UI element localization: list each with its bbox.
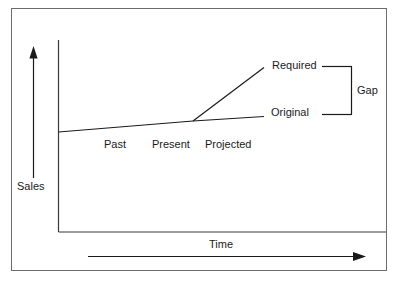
original-trend-line: [59, 121, 194, 132]
sales-arrow-head: [29, 46, 37, 59]
time-arrow-head: [353, 252, 366, 261]
y-axis-label: Sales: [17, 181, 45, 192]
series-label-required: Required: [272, 60, 317, 71]
period-label-present: Present: [152, 139, 190, 150]
diagram-canvas: Required Original Gap Past Present Proje…: [0, 0, 398, 283]
period-label-projected: Projected: [205, 139, 251, 150]
diagram-graphics: [0, 0, 398, 283]
x-axis-label: Time: [209, 239, 233, 250]
gap-annotation-label: Gap: [357, 85, 378, 96]
series-label-original: Original: [271, 107, 309, 118]
period-label-past: Past: [104, 139, 126, 150]
original-projection-line: [193, 117, 264, 122]
required-projection-line: [193, 68, 264, 122]
